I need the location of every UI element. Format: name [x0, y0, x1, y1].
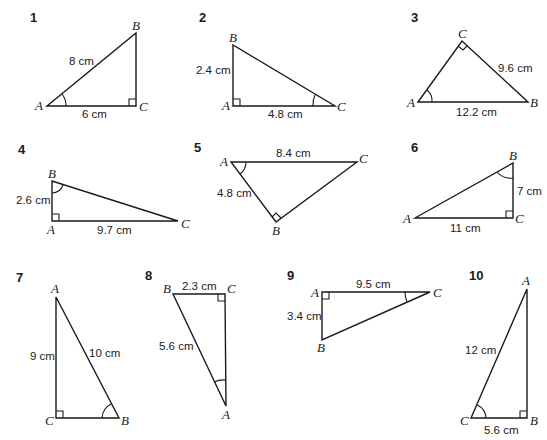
triangle-5: 5 A B C 8.4 cm 4.8 cm: [194, 140, 368, 238]
angle-arc-marker: [102, 404, 111, 418]
triangle-number: 8: [145, 268, 152, 283]
side-length-label: 9.6 cm: [498, 62, 533, 74]
triangle-number: 7: [16, 270, 23, 285]
right-angle-marker: [322, 292, 329, 299]
side-length-label: 10 cm: [89, 347, 120, 359]
triangle-8: 8 A B C 2.3 cm 5.6 cm: [145, 268, 236, 422]
triangle-10: 10 A B C 12 cm 5.6 cm: [460, 268, 538, 436]
vertex-label-a: A: [221, 407, 230, 422]
side-length-label: 6 cm: [82, 108, 107, 120]
triangle-6: 6 A B C 7 cm 11 cm: [402, 140, 542, 234]
triangle-1: 1 A B C 8 cm 6 cm: [30, 10, 148, 120]
triangle-number: 9: [287, 268, 294, 283]
side-length-label: 8 cm: [69, 55, 94, 67]
side-length-label: 7 cm: [517, 185, 542, 197]
vertex-label-a: A: [50, 281, 59, 296]
triangle-number: 3: [411, 10, 418, 25]
vertex-label-b: B: [48, 166, 56, 181]
vertex-label-a: A: [406, 95, 415, 110]
triangle-outline: [322, 292, 430, 340]
vertex-label-c: C: [139, 99, 148, 114]
side-length-label: 8.4 cm: [276, 147, 311, 159]
triangle-2: 2 A B C 2.4 cm 4.8 cm: [196, 10, 346, 120]
triangle-number: 2: [199, 10, 206, 25]
right-angle-marker: [520, 411, 527, 418]
triangle-number: 6: [411, 140, 418, 155]
angle-arc-marker: [62, 94, 66, 106]
vertex-label-a: A: [46, 222, 55, 237]
right-angle-marker: [458, 46, 467, 50]
vertex-label-a: A: [310, 285, 319, 300]
angle-arc-marker: [427, 90, 432, 102]
right-angle-marker: [272, 213, 281, 218]
vertex-label-b: B: [163, 281, 171, 296]
vertex-label-b: B: [530, 413, 538, 428]
side-length-label: 2.6 cm: [16, 194, 51, 206]
angle-arc-marker: [477, 405, 486, 418]
vertex-label-a: A: [402, 211, 411, 226]
triangle-outline: [233, 45, 335, 106]
angle-arc-marker: [497, 172, 513, 178]
side-length-label: 11 cm: [450, 222, 480, 234]
right-angle-marker: [506, 211, 513, 218]
vertex-label-b: B: [121, 413, 129, 428]
vertex-label-c: C: [460, 413, 469, 428]
angle-arc-marker: [313, 95, 315, 106]
vertex-label-b: B: [317, 340, 325, 355]
angle-arc-marker: [405, 292, 407, 302]
right-angle-marker: [52, 214, 59, 221]
side-length-label: 4.8 cm: [217, 187, 252, 199]
vertex-label-c: C: [337, 99, 346, 114]
triangle-9: 9 A B C 9.5 cm 3.4 cm: [287, 268, 442, 355]
vertex-label-c: C: [515, 211, 524, 226]
triangle-outline: [52, 181, 178, 221]
side-length-label: 4.8 cm: [268, 108, 303, 120]
vertex-label-b: B: [530, 95, 538, 110]
right-angle-marker: [56, 411, 63, 418]
vertex-label-a: A: [34, 98, 43, 113]
side-length-label: 9.7 cm: [97, 224, 132, 236]
side-length-label: 3.4 cm: [287, 310, 322, 322]
right-angle-marker: [233, 99, 240, 106]
right-angle-marker: [218, 294, 225, 301]
angle-arc-marker: [52, 185, 63, 193]
angle-arc-marker: [240, 162, 246, 174]
vertex-label-c: C: [433, 285, 442, 300]
side-length-label: 12 cm: [465, 344, 496, 356]
vertex-label-c: C: [181, 216, 190, 231]
side-length-label: 2.3 cm: [182, 280, 217, 292]
vertex-label-c: C: [227, 281, 236, 296]
vertex-label-b: B: [272, 223, 280, 238]
triangle-number: 10: [469, 268, 483, 283]
side-length-label: 2.4 cm: [196, 64, 231, 76]
vertex-label-a: A: [521, 273, 530, 288]
vertex-label-b: B: [132, 18, 140, 33]
side-length-label: 9 cm: [30, 350, 55, 362]
side-length-label: 12.2 cm: [456, 106, 497, 118]
side-length-label: 5.6 cm: [484, 424, 519, 436]
triangle-outline: [415, 163, 513, 218]
vertex-label-b: B: [509, 148, 517, 163]
side-length-label: 5.6 cm: [159, 340, 194, 352]
triangles-diagram: 1 A B C 8 cm 6 cm 2 A B C 2.4 cm 4.8 cm …: [0, 0, 547, 440]
angle-arc-marker: [214, 380, 226, 382]
vertex-label-c: C: [458, 26, 467, 41]
vertex-label-b: B: [229, 30, 237, 45]
vertex-label-a: A: [221, 98, 230, 113]
triangle-4: 4 A B C 2.6 cm 9.7 cm: [16, 142, 190, 237]
triangle-number: 4: [18, 142, 26, 157]
triangle-number: 1: [30, 10, 37, 25]
vertex-label-c: C: [359, 151, 368, 166]
triangle-outline: [47, 33, 136, 106]
vertex-label-a: A: [219, 154, 228, 169]
vertex-label-c: C: [45, 413, 54, 428]
side-length-label: 9.5 cm: [356, 278, 391, 290]
triangle-7: 7 A B C 9 cm 10 cm: [16, 270, 129, 428]
triangle-number: 5: [194, 140, 201, 155]
triangle-3: 3 A B C 9.6 cm 12.2 cm: [406, 10, 538, 118]
right-angle-marker: [129, 99, 136, 106]
